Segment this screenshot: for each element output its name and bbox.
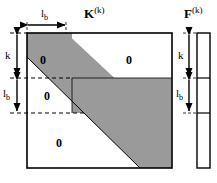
left-dimension-label-k: k — [5, 50, 11, 61]
zero-label: 0 — [40, 53, 46, 67]
vector-f-name: F — [184, 6, 192, 21]
vector-f-title: F(k) — [184, 6, 202, 20]
matrix-k-name: K — [84, 6, 94, 21]
figure-canvas — [0, 0, 217, 183]
vector-f-superscript: (k) — [192, 5, 203, 15]
matrix-structure-figure: K(k) F(k) lb k lb 0 0 0 0 k lb — [0, 0, 217, 183]
left-dim-lb-sub: b — [6, 93, 10, 102]
zero-label: 0 — [44, 89, 50, 103]
vector-dim-lb-sub: b — [179, 93, 183, 102]
top-dimension-label-lb: lb — [41, 8, 48, 22]
vector-dimension-label-k: k — [178, 50, 184, 61]
left-dimension-label-lb: lb — [3, 88, 10, 102]
top-dim-lb-sub: b — [44, 13, 48, 22]
zero-block-lower-left: 0 — [56, 137, 62, 149]
zero-label: 0 — [126, 53, 132, 67]
matrix-k-title: K(k) — [84, 6, 105, 20]
left-dim-k-text: k — [5, 49, 11, 61]
matrix-k-superscript: (k) — [94, 5, 105, 15]
vector-outline — [197, 33, 210, 168]
zero-block-upper-left: 0 — [40, 54, 46, 66]
zero-label: 0 — [56, 136, 62, 150]
vector-dimension-label-lb: lb — [176, 88, 183, 102]
vector-dim-k-text: k — [178, 49, 184, 61]
zero-block-upper-right: 0 — [126, 54, 132, 66]
zero-block-middle-left: 0 — [44, 90, 50, 102]
